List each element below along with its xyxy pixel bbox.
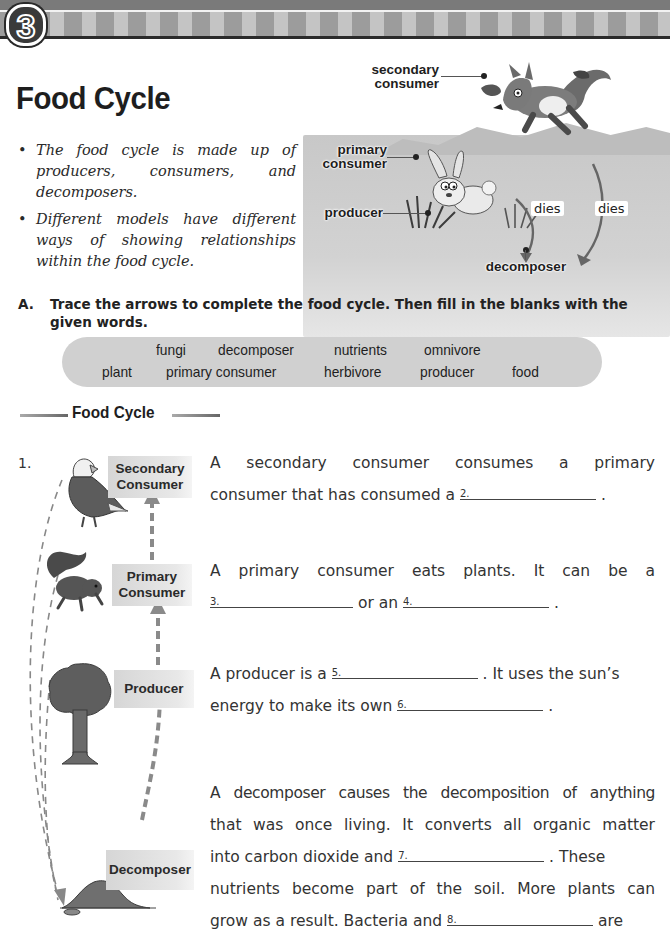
header-stripes	[0, 10, 670, 36]
tree-icon	[44, 660, 114, 770]
para-text: A producer is a	[210, 665, 327, 683]
word-bank-item: decomposer	[218, 341, 294, 358]
intro-bullets: The food cycle is made up of producers, …	[16, 140, 296, 278]
word-bank: fungi decomposer nutrients omnivore plan…	[62, 337, 602, 387]
blank-number: 2.	[460, 489, 470, 499]
dies-arrow-fox	[573, 162, 613, 272]
pointer-dot	[523, 247, 529, 253]
node-label-line: Consumer	[117, 477, 184, 493]
word-bank-item: herbivore	[324, 363, 382, 380]
paragraph-decomposer: A decomposer causes the decomposition of…	[210, 777, 655, 937]
node-label-line: Primary	[127, 569, 177, 585]
label-dies-2: dies	[595, 201, 628, 216]
para-line: A decomposer causes the decomposition of…	[210, 777, 655, 809]
section-letter: A.	[18, 295, 34, 313]
leader-line	[383, 213, 427, 214]
para-line: consumer that has consumed a 2. .	[210, 479, 655, 511]
word-bank-item: omnivore	[424, 341, 481, 358]
blank-4-input[interactable]: 4.	[403, 590, 549, 608]
blank-7-input[interactable]: 7.	[398, 844, 544, 862]
subheading-rule-left	[20, 414, 68, 417]
para-line: energy to make its own 6. .	[210, 690, 655, 722]
word-bank-item: food	[512, 363, 539, 380]
para-text: .	[601, 486, 606, 504]
blank-number: 7.	[398, 851, 408, 861]
label-producer: producer	[313, 206, 383, 220]
label-dies-1: dies	[531, 201, 564, 216]
unit-number-badge: 3	[6, 4, 46, 46]
blank-2-input[interactable]: 2.	[460, 482, 596, 500]
node-label-decomposer: Decomposer	[106, 850, 194, 890]
para-line: 3. or an 4. .	[210, 587, 655, 619]
grass-icon	[403, 190, 463, 230]
para-line: A producer is a 5. . It uses the sun’s	[210, 658, 655, 690]
label-line: consumer	[359, 77, 439, 91]
word-bank-item: plant	[102, 363, 132, 380]
leader-line	[441, 76, 485, 77]
bullet-item: The food cycle is made up of producers, …	[16, 140, 296, 203]
word-bank-item: producer	[420, 363, 474, 380]
para-line: that was once living. It converts all or…	[210, 809, 655, 841]
instruction-text: Trace the arrows to complete the food cy…	[50, 295, 660, 331]
para-text: into carbon dioxide and	[210, 848, 393, 866]
node-label-primary-consumer: Primary Consumer	[112, 564, 192, 606]
label-line: consumer	[311, 157, 387, 171]
pointer-dot	[425, 210, 431, 216]
blank-8-input[interactable]: 8.	[447, 908, 593, 926]
para-line: into carbon dioxide and 7. . These	[210, 841, 655, 873]
label-line: secondary	[359, 63, 439, 77]
para-text: consumer that has consumed a	[210, 486, 455, 504]
header-rule	[0, 36, 670, 39]
blank-number: 4.	[403, 597, 413, 607]
node-label-line: Secondary	[115, 461, 184, 477]
node-label-producer: Producer	[114, 670, 194, 708]
node-label-line: Consumer	[119, 585, 186, 601]
pointer-dot	[413, 154, 419, 160]
paragraph-secondary-consumer: A secondary consumer consumes a primary …	[210, 447, 655, 511]
label-line: primary	[311, 143, 387, 157]
blank-number: 6.	[397, 700, 407, 710]
word-bank-item: nutrients	[334, 341, 387, 358]
pointer-dot	[481, 73, 487, 79]
squirrel-icon	[40, 548, 110, 618]
bullet-item: Different models have different ways of …	[16, 209, 296, 272]
page-title: Food Cycle	[16, 80, 170, 117]
subheading-text: Food Cycle	[72, 403, 154, 423]
food-cycle-illustration: secondary consumer primary consumer prod…	[303, 60, 670, 275]
para-line: grow as a result. Bacteria and 8. are	[210, 905, 655, 937]
node-label-secondary-consumer: Secondary Consumer	[108, 456, 192, 498]
label-secondary-consumer: secondary consumer	[359, 63, 439, 91]
blank-3-input[interactable]: 3.	[210, 590, 353, 608]
para-text: . These	[549, 848, 605, 866]
diagram-subheading: Food Cycle	[20, 403, 220, 427]
para-text: . It uses the sun’s	[483, 665, 620, 683]
node-label-line: Producer	[124, 681, 183, 697]
blank-number: 3.	[210, 597, 220, 607]
header-band	[0, 0, 670, 10]
fox-icon	[473, 60, 613, 140]
word-bank-item: primary consumer	[166, 363, 276, 380]
para-text: are	[598, 912, 623, 930]
word-bank-item: fungi	[156, 341, 186, 358]
leader-line	[387, 157, 415, 158]
unit-number: 3	[17, 7, 36, 45]
para-line: nutrients become part of the soil. More …	[210, 873, 655, 905]
label-decomposer: decomposer	[481, 260, 571, 274]
para-text: .	[554, 594, 559, 612]
para-text: or an	[358, 594, 398, 612]
label-primary-consumer: primary consumer	[311, 143, 387, 171]
para-line: A secondary consumer consumes a primary	[210, 447, 655, 479]
paragraph-primary-consumer: A primary consumer eats plants. It can b…	[210, 555, 655, 619]
blank-5-input[interactable]: 5.	[332, 661, 478, 679]
para-text: .	[548, 697, 553, 715]
blank-6-input[interactable]: 6.	[397, 693, 543, 711]
para-line: A primary consumer eats plants. It can b…	[210, 555, 655, 587]
blank-number: 8.	[447, 915, 457, 925]
node-label-line: Decomposer	[109, 862, 191, 878]
subheading-rule-right	[172, 414, 220, 417]
paragraph-producer: A producer is a 5. . It uses the sun’s e…	[210, 658, 655, 722]
para-text: energy to make its own	[210, 697, 392, 715]
para-text: grow as a result. Bacteria and	[210, 912, 442, 930]
blank-number: 5.	[332, 668, 342, 678]
